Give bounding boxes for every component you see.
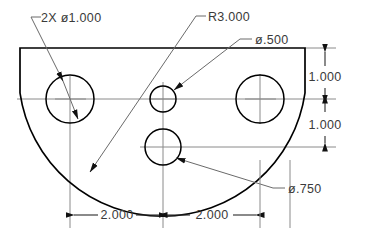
label-2x-diameter: 2X ø1.000 <box>41 11 101 25</box>
engineering-drawing-svg: 2X ø1.000 R3.000 ø.500 ø.750 1.000 1.000… <box>0 0 370 240</box>
label-radius: R3.000 <box>208 10 250 24</box>
dim-vertical-bottom: 1.000 <box>309 118 342 132</box>
leader-medium-hole <box>176 158 285 188</box>
leader-2x-diameter <box>31 17 78 119</box>
leader-small-hole <box>174 39 252 90</box>
leader-line-radius <box>90 16 196 172</box>
label-small-hole: ø.500 <box>255 33 288 47</box>
technical-drawing-canvas: 2X ø1.000 R3.000 ø.500 ø.750 1.000 1.000… <box>0 0 370 240</box>
dim-horizontal-left: 2.000 <box>101 208 134 222</box>
leader-radius <box>90 16 206 172</box>
dim-horizontal-right: 2.000 <box>196 208 229 222</box>
leader-line-medium-hole <box>176 158 273 188</box>
leader-line-2x-upper <box>31 17 63 81</box>
label-medium-hole: ø.750 <box>288 182 321 196</box>
dim-vertical-top: 1.000 <box>309 70 342 84</box>
leader-line-small-hole <box>174 39 240 90</box>
